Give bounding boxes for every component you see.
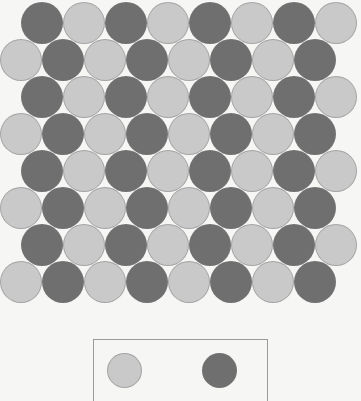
circle-dark: [273, 2, 315, 44]
circle-dark: [21, 150, 63, 192]
legend-swatch-light: [107, 353, 142, 388]
circle-dark: [210, 261, 252, 303]
circle-light: [168, 187, 210, 229]
circle-dark: [189, 150, 231, 192]
circle-row: [0, 113, 336, 155]
circle-dark: [273, 76, 315, 118]
circle-light: [147, 150, 189, 192]
circle-dark: [105, 224, 147, 266]
circle-dark: [126, 261, 168, 303]
circle-light: [147, 2, 189, 44]
circle-dark: [273, 224, 315, 266]
circle-dark: [42, 113, 84, 155]
circle-dark: [294, 261, 336, 303]
circle-dark: [105, 76, 147, 118]
circle-row: [21, 224, 357, 266]
circle-dark: [294, 39, 336, 81]
circle-light: [252, 187, 294, 229]
circle-dark: [210, 113, 252, 155]
circle-light: [84, 261, 126, 303]
circle-row: [0, 187, 336, 229]
legend-swatch-dark: [202, 353, 237, 388]
circle-dark: [294, 187, 336, 229]
circle-dark: [273, 150, 315, 192]
circle-light: [168, 261, 210, 303]
circle-dark: [294, 113, 336, 155]
circle-dark: [189, 76, 231, 118]
circle-dark: [189, 2, 231, 44]
circle-dark: [210, 39, 252, 81]
circle-light: [315, 76, 357, 118]
circle-light: [168, 39, 210, 81]
circle-light: [315, 2, 357, 44]
circle-dark: [105, 150, 147, 192]
circle-dark: [126, 39, 168, 81]
circle-light: [84, 39, 126, 81]
circle-packing-grid: [0, 0, 361, 320]
circle-dark: [189, 224, 231, 266]
circle-light: [84, 113, 126, 155]
circle-dark: [105, 2, 147, 44]
circle-light: [168, 113, 210, 155]
circle-light: [147, 76, 189, 118]
circle-light: [63, 224, 105, 266]
circle-dark: [126, 187, 168, 229]
circle-row: [21, 2, 357, 44]
circle-light: [0, 261, 42, 303]
circle-light: [0, 39, 42, 81]
circle-light: [315, 224, 357, 266]
circle-light: [63, 2, 105, 44]
circle-light: [147, 224, 189, 266]
circle-light: [63, 76, 105, 118]
circle-light: [0, 187, 42, 229]
circle-dark: [42, 261, 84, 303]
circle-dark: [21, 224, 63, 266]
circle-light: [231, 2, 273, 44]
circle-dark: [126, 113, 168, 155]
circle-row: [0, 261, 336, 303]
circle-row: [21, 76, 357, 118]
circle-light: [63, 150, 105, 192]
circle-light: [252, 113, 294, 155]
circle-dark: [21, 2, 63, 44]
circle-light: [315, 150, 357, 192]
circle-light: [231, 224, 273, 266]
circle-dark: [42, 39, 84, 81]
circle-row: [0, 39, 336, 81]
circle-dark: [42, 187, 84, 229]
circle-row: [21, 150, 357, 192]
circle-light: [252, 261, 294, 303]
circle-light: [0, 113, 42, 155]
circle-light: [231, 76, 273, 118]
circle-dark: [210, 187, 252, 229]
circle-light: [231, 150, 273, 192]
circle-light: [252, 39, 294, 81]
circle-light: [84, 187, 126, 229]
circle-dark: [21, 76, 63, 118]
legend-box: [93, 339, 268, 401]
circle-packing-figure: [0, 0, 361, 401]
